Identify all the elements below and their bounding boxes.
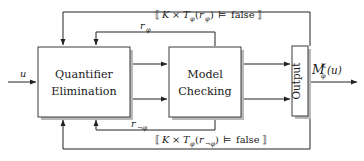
- qe-label-line2: Elimination: [51, 85, 116, 98]
- r-phi-subscript: φ: [146, 26, 151, 34]
- guard-top-arg-close: ): [210, 9, 214, 20]
- qe-label-line1: Quantifier: [55, 68, 113, 81]
- block-quantifier-elimination[interactable]: Quantifier Elimination: [38, 47, 133, 120]
- input-label: u: [20, 68, 26, 79]
- output-expression: M K φ (u): [311, 62, 342, 80]
- inner-feedback-top-wire: [96, 32, 215, 46]
- guard-bottom-times: ×: [172, 134, 180, 145]
- block-model-checking[interactable]: Model Checking: [169, 47, 244, 120]
- block-diagram: Quantifier Elimination Model Checking Ou…: [0, 0, 364, 161]
- guard-bottom-arg-close: ): [215, 134, 219, 145]
- guard-bottom-arg-subscript: ¬φ: [205, 140, 216, 148]
- output-expr-subscript: φ: [321, 72, 326, 80]
- guard-top-close: ⟧: [257, 9, 262, 20]
- mc-label-line2: Checking: [178, 85, 231, 98]
- guard-bottom-close: ⟧: [262, 134, 267, 145]
- guard-top-models: ⊨: [218, 9, 226, 20]
- guard-top-value: false: [231, 9, 255, 20]
- guard-top-times: ×: [172, 9, 180, 20]
- r-not-phi-subscript: ¬φ: [137, 124, 148, 132]
- guard-label-top: ⟦ K × T φ ( r φ ) ⊨ false ⟧: [155, 9, 262, 23]
- guard-label-bottom: ⟦ K × T φ ( r ¬φ ) ⊨ false ⟧: [155, 134, 267, 148]
- diagram-canvas: Quantifier Elimination Model Checking Ou…: [0, 0, 364, 161]
- output-label: Output: [290, 62, 302, 100]
- guard-top-open: ⟦: [155, 9, 160, 20]
- block-output[interactable]: Output: [290, 46, 311, 119]
- output-expr-argument: (u): [327, 64, 342, 76]
- guard-bottom-open: ⟦: [155, 134, 160, 145]
- guard-bottom-value: false: [236, 134, 260, 145]
- guard-bottom-k: K: [161, 134, 170, 145]
- mc-label-line1: Model: [187, 68, 223, 81]
- guard-top-k: K: [161, 9, 170, 20]
- guard-bottom-models: ⊨: [223, 134, 231, 145]
